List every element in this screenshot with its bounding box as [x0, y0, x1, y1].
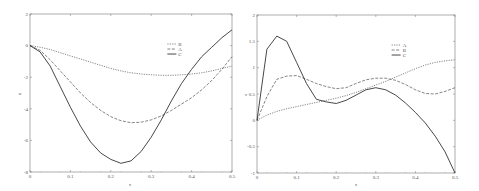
x-tick-label: 0.1	[67, 174, 74, 179]
y-tick-label: 1	[253, 65, 256, 70]
series-B-line	[257, 76, 455, 121]
x-tick-label: 0.1	[293, 175, 300, 180]
left-y-ticks: 20-2-4-6-8	[24, 12, 232, 175]
x-tick-label: 0.4	[412, 175, 419, 180]
y-tick-label: 0	[26, 43, 29, 48]
x-tick-label: 0.3	[148, 174, 155, 179]
x-tick-label: 0	[29, 174, 32, 179]
left-plot: 00.10.20.30.40.5 20-2-4-6-8 x u BAC	[19, 12, 236, 187]
series-C-line	[30, 30, 232, 164]
x-tick-label: 0.5	[229, 174, 236, 179]
y-tick-label: 2	[253, 13, 256, 18]
right-legend: ABC	[392, 43, 407, 58]
y-tick-label: -2	[24, 75, 29, 80]
x-tick-label: 0.2	[108, 174, 115, 179]
left-x-axis-label: x	[129, 182, 132, 187]
right-plot: 00.10.20.30.40.5 21.510.50-0.5-1 x v ABC	[245, 13, 459, 187]
right-plot-frame	[257, 15, 455, 173]
y-tick-label: -8	[24, 170, 29, 175]
right-y-axis-label: v	[245, 92, 248, 97]
right-series	[257, 36, 455, 173]
left-plot-frame	[30, 14, 232, 172]
legend-label-C: C	[403, 53, 407, 58]
y-tick-label: -6	[24, 138, 29, 143]
left-series	[30, 30, 232, 164]
x-tick-label: 0.2	[333, 175, 340, 180]
left-legend: BAC	[167, 42, 182, 57]
y-tick-label: 2	[26, 12, 29, 17]
left-y-axis-label: u	[19, 91, 22, 96]
x-tick-label: 0.3	[373, 175, 380, 180]
series-B-line	[30, 46, 232, 76]
x-tick-label: 0.5	[452, 175, 459, 180]
y-tick-label: -1	[251, 171, 256, 176]
left-x-ticks: 00.10.20.30.40.5	[29, 14, 236, 179]
x-tick-label: 0	[256, 175, 259, 180]
y-tick-label: -0.5	[247, 144, 255, 149]
right-x-axis-label: x	[355, 182, 358, 187]
right-x-ticks: 00.10.20.30.40.5	[256, 15, 459, 180]
y-tick-label: -4	[24, 107, 29, 112]
chart-canvas: 00.10.20.30.40.5 20-2-4-6-8 x u BAC 00.1…	[0, 0, 479, 191]
series-A-line	[257, 60, 455, 121]
series-C-line	[257, 36, 455, 173]
y-tick-label: 0	[253, 118, 256, 123]
x-tick-label: 0.4	[188, 174, 195, 179]
y-tick-label: 1.5	[249, 39, 256, 44]
y-tick-label: 0.5	[249, 92, 256, 97]
legend-label-C: C	[178, 52, 182, 57]
